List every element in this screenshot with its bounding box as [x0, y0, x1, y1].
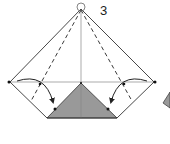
dot-right-point — [154, 81, 157, 84]
step-number: 3 — [100, 3, 107, 18]
dot-left-point — [8, 81, 11, 84]
next-step-partial-shape — [163, 92, 170, 108]
origami-diagram: 3 — [0, 0, 170, 144]
fold-arrow-left — [17, 79, 53, 102]
apex-circle — [77, 3, 85, 11]
valley-fold-line-right — [81, 10, 132, 101]
valley-fold-line-left — [31, 10, 81, 101]
dot-right-target — [107, 108, 110, 111]
dot-center — [80, 82, 82, 84]
dot-left-target — [54, 108, 57, 111]
dot-right-crossing — [123, 83, 126, 86]
colored-triangle — [47, 83, 117, 118]
dot-left-crossing — [39, 83, 42, 86]
fold-arrow-right — [111, 79, 147, 102]
